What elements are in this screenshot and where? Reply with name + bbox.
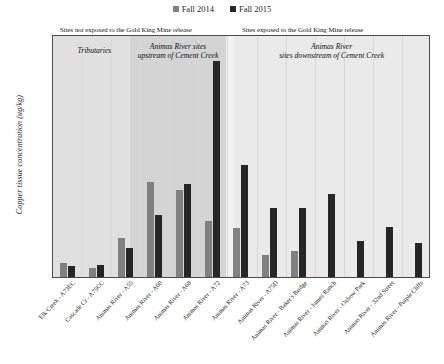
bar-group — [342, 36, 371, 277]
bar-group — [111, 36, 140, 277]
bar-group — [198, 36, 227, 277]
bar — [155, 215, 162, 277]
bar-group — [313, 36, 342, 277]
legend-label-fall-2015: Fall 2015 — [239, 4, 271, 14]
legend-swatch-fall-2015 — [230, 6, 236, 12]
bar — [299, 208, 306, 277]
bar — [68, 266, 75, 277]
bar — [386, 227, 393, 277]
plot-area-wrapper: 05,00010,00015,00020,00025,00030,00035,0… — [52, 35, 430, 278]
x-axis-label: Animas River - James Ranch — [281, 279, 337, 338]
bar-group — [169, 36, 198, 277]
bar-group — [53, 36, 82, 277]
bar — [205, 221, 212, 277]
bar — [97, 265, 104, 277]
caption-tributaries: Tributaries — [61, 46, 129, 55]
bar — [89, 268, 96, 277]
annotation-exposed-header: Sites exposed to the Gold King Mine rele… — [242, 26, 363, 33]
legend-swatch-fall-2014 — [173, 6, 179, 12]
bar — [60, 263, 67, 277]
bar — [233, 228, 240, 277]
bar-group — [400, 36, 429, 277]
bar — [213, 61, 220, 277]
bar — [176, 190, 183, 277]
x-axis-label: Animas River - Baker's Bridge — [249, 279, 308, 341]
legend-item-fall-2015: Fall 2015 — [230, 4, 271, 14]
bar — [184, 184, 191, 277]
x-axis-label: Animas River - Oxbow Park — [311, 279, 366, 337]
bar — [126, 248, 133, 277]
bar-group — [227, 36, 256, 277]
annotation-not-exposed-header: Sites not exposed to the Gold King Mine … — [60, 26, 192, 33]
y-axis-title: Copper tissue concentration (ug/kg) — [15, 50, 24, 260]
x-axis-label: Animas River - Purple Cliffs — [369, 279, 424, 338]
bar — [328, 194, 335, 277]
bar — [415, 243, 422, 278]
bar — [241, 165, 248, 277]
bar-series-container — [53, 36, 429, 277]
caption-downstream: Animas Riversites downstream of Cement C… — [234, 42, 429, 61]
plot-area: 05,00010,00015,00020,00025,00030,00035,0… — [52, 35, 430, 278]
bar — [118, 238, 125, 277]
bar-group — [140, 36, 169, 277]
caption-upstream: Animas River sitesupstream of Cement Cre… — [130, 42, 226, 61]
bar-group — [284, 36, 313, 277]
bar — [270, 208, 277, 277]
bar — [357, 241, 364, 277]
legend-label-fall-2014: Fall 2014 — [182, 4, 214, 14]
copper-concentration-bar-chart: Fall 2014 Fall 2015 Copper tissue concen… — [0, 0, 444, 364]
bar — [291, 251, 298, 277]
legend-item-fall-2014: Fall 2014 — [173, 4, 214, 14]
bar — [147, 182, 154, 277]
x-axis-labels: Elk Creek - A73ECCascade Cr - A75CCAnima… — [52, 279, 430, 364]
chart-legend: Fall 2014 Fall 2015 — [0, 4, 444, 14]
bar-group — [82, 36, 111, 277]
bar-group — [255, 36, 284, 277]
bar-group — [371, 36, 400, 277]
bar — [262, 255, 269, 277]
x-axis-label: Animas River - 32nd Street — [342, 279, 395, 335]
